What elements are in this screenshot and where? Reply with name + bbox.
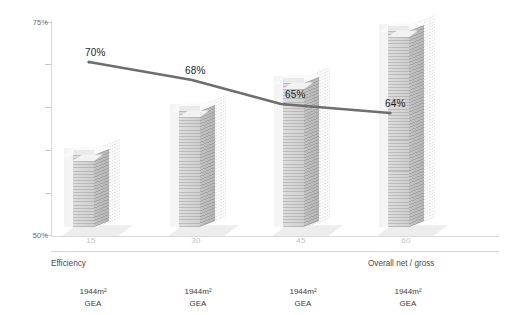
building-tower-30 (168, 104, 226, 236)
x-tick-label-45: 45 (271, 236, 331, 245)
building-tower-45 (272, 76, 330, 236)
y-axis-bottom-label: 50% (2, 231, 48, 240)
footer-metric-45: GEA (258, 298, 348, 310)
y-axis-tick (45, 64, 51, 65)
y-axis-top-label: 75% (2, 18, 48, 27)
section-divider (51, 251, 499, 252)
footer-metric-15: GEA (48, 298, 138, 310)
point-label-45: 65% (285, 89, 306, 100)
footer-area-45: 1944m² (289, 287, 316, 296)
x-axis-caption-net-gross: Overall net / gross (368, 259, 434, 268)
x-tick-label-15: 15 (61, 236, 121, 245)
point-label-30: 68% (185, 65, 206, 76)
efficiency-line (89, 62, 390, 113)
footer-area-15: 1944m² (79, 287, 106, 296)
y-axis-tick (45, 107, 51, 108)
footer-note-30: 1944m² GEA (153, 286, 243, 309)
x-tick-label-30: 30 (166, 236, 226, 245)
point-label-15: 70% (85, 47, 106, 58)
footer-metric-60: GEA (363, 298, 453, 310)
x-axis-caption-efficiency: Efficiency (51, 259, 86, 268)
footer-area-60: 1944m² (394, 287, 421, 296)
building-tower-15 (62, 148, 120, 236)
building-tower-60 (377, 24, 435, 236)
efficiency-point (87, 60, 90, 63)
y-axis-tick (45, 193, 51, 194)
y-axis-line (51, 21, 52, 236)
y-axis-tick (45, 150, 51, 151)
footer-note-15: 1944m² GEA (48, 286, 138, 309)
building-efficiency-chart: 75% 50% (0, 0, 509, 315)
point-label-60: 64% (385, 98, 406, 109)
footer-note-45: 1944m² GEA (258, 286, 348, 309)
footer-metric-30: GEA (153, 298, 243, 310)
x-tick-label-60: 60 (376, 236, 436, 245)
footer-area-30: 1944m² (184, 287, 211, 296)
footer-note-60: 1944m² GEA (363, 286, 453, 309)
